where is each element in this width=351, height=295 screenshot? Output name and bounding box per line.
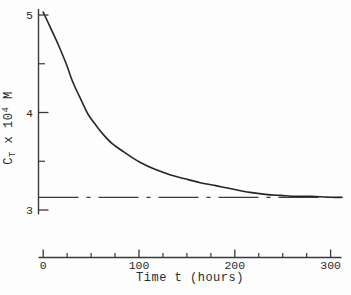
- decay-curve: [43, 12, 342, 197]
- y-tick-label: 3: [26, 204, 33, 217]
- x-axis: 0100200300: [39, 250, 342, 273]
- y-axis-title-text: M: [2, 91, 16, 106]
- curve-layer: [43, 12, 342, 197]
- y-axis-title-text: C: [2, 157, 16, 165]
- y-axis-title-text: x 10: [2, 113, 16, 152]
- decay-curve-chart: 543 0100200300 Time t (hours) CT x 104 M: [0, 0, 351, 295]
- y-tick-label: 5: [26, 9, 33, 22]
- y-tick-label: 4: [26, 107, 33, 120]
- x-tick-label: 300: [320, 259, 341, 272]
- x-axis-title: Time t (hours): [136, 271, 244, 285]
- decay-curve-figure: 543 0100200300 Time t (hours) CT x 104 M: [0, 0, 351, 295]
- y-axis-title: CT x 104 M: [1, 91, 18, 164]
- y-axis: 543: [26, 9, 48, 217]
- x-tick-label: 0: [40, 259, 47, 272]
